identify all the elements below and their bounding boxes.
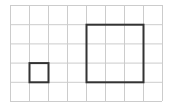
small-square [30,63,49,82]
grid-diagram [0,0,174,108]
large-square [87,25,144,83]
